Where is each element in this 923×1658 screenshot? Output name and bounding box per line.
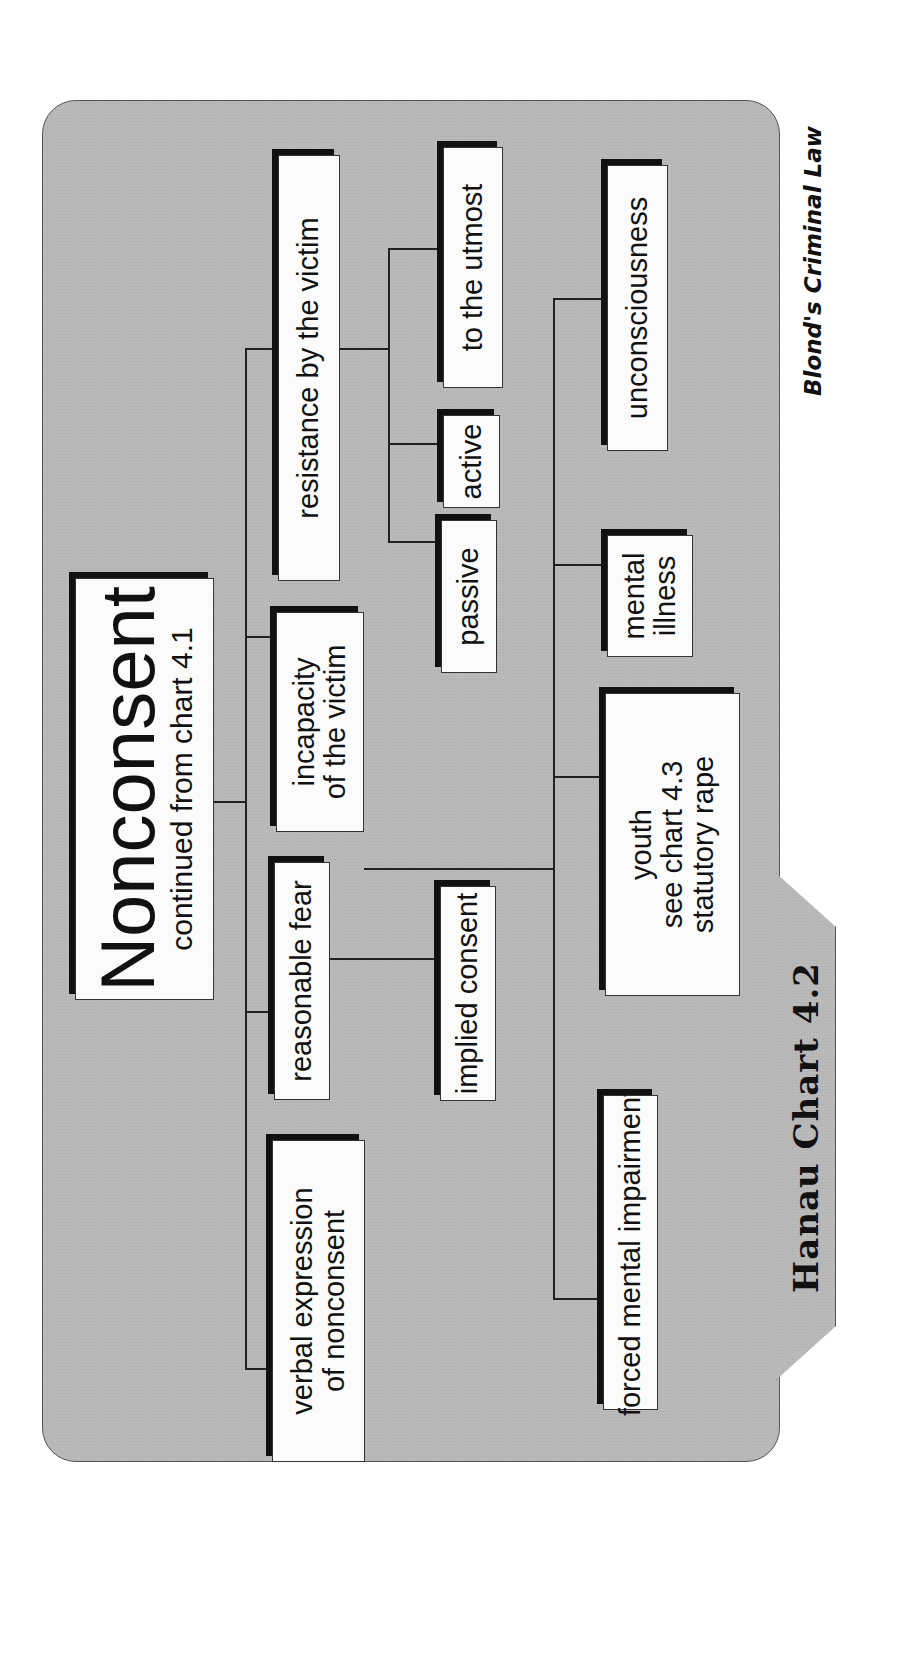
connector-mental — [553, 565, 607, 567]
connector-forced — [553, 1299, 603, 1301]
connector-unconscious — [553, 299, 607, 301]
node-resistance: resistance by the victim — [278, 155, 340, 581]
node-youth: youth see chart 4.3 statutory rape — [605, 693, 740, 996]
node-verbal-expression: verbal expression of nonconsent — [272, 1140, 365, 1462]
connector-fear-implied — [330, 959, 440, 961]
node-nonconsent: Nonconsent continued from chart 4.1 — [75, 578, 214, 1000]
node-implied-consent: implied consent — [440, 886, 496, 1101]
connector-incapacity-down — [364, 869, 553, 871]
publisher-credit: Blond's Criminal Law — [800, 126, 826, 396]
node-unconsciousness: unconsciousness — [607, 165, 668, 451]
connector-incapacity — [245, 637, 276, 639]
connector-verbal — [245, 1369, 272, 1371]
connector-passive — [388, 542, 441, 544]
connector-incapacity-spine — [553, 300, 555, 1300]
connector-resistance — [245, 349, 278, 351]
node-reasonable-fear: reasonable fear — [274, 862, 330, 1100]
connector-youth — [553, 777, 605, 779]
connector-active — [388, 444, 443, 446]
connector-utmost — [388, 249, 443, 251]
connector-resistance-spine — [388, 250, 390, 543]
node-mental-illness: mental illness — [607, 535, 693, 657]
node-title: Nonconsent — [90, 586, 166, 992]
node-to-the-utmost: to the utmost — [443, 147, 503, 388]
connector-root — [214, 802, 245, 804]
diagram-canvas: Hanau Chart 4.2 Blond's Criminal Law Non… — [0, 0, 923, 1658]
node-forced-mental-impairment: forced mental impairment — [603, 1095, 658, 1410]
node-active: active — [443, 415, 500, 508]
node-subtitle: continued from chart 4.1 — [166, 627, 198, 951]
connector-fear — [245, 1012, 274, 1014]
connector-main-spine — [245, 348, 247, 1370]
connector-resistance-down — [340, 349, 388, 351]
node-incapacity: incapacity of the victim — [276, 612, 364, 832]
chart-tab-label: Hanau Chart 4.2 — [786, 875, 826, 1380]
node-passive: passive — [441, 520, 497, 673]
